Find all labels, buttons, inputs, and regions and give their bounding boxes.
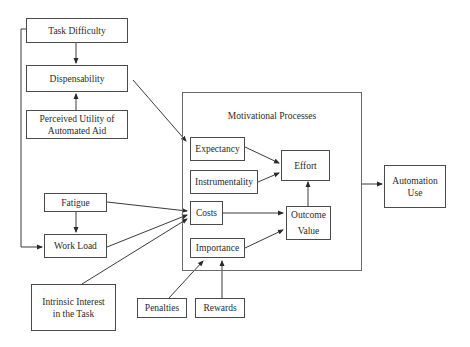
arrow-fatigue-costs <box>107 202 187 211</box>
node-label: Expectancy <box>195 143 239 155</box>
group-title: Motivational Processes <box>183 111 361 121</box>
node-intrinsic-interest: Intrinsic Interest in the Task <box>31 284 116 331</box>
node-label: Outcome Value <box>291 211 326 235</box>
arrow-dispensability-expectancy <box>133 80 186 141</box>
node-label: Importance <box>196 242 239 254</box>
node-work-load: Work Load <box>44 234 107 258</box>
node-fatigue: Fatigue <box>44 193 107 212</box>
node-rewards: Rewards <box>195 298 245 318</box>
node-penalties: Penalties <box>137 298 187 318</box>
node-label: Instrumentality <box>195 176 253 188</box>
node-label: Costs <box>196 207 217 219</box>
node-automation-use: Automation Use <box>384 165 446 208</box>
node-label: Penalties <box>145 302 179 314</box>
node-label: Intrinsic Interest in the Task <box>42 296 105 320</box>
node-label: Task Difficulty <box>48 25 105 37</box>
node-instrumentality: Instrumentality <box>190 170 258 194</box>
arrow-workload-costs <box>107 215 187 247</box>
node-costs: Costs <box>190 201 223 225</box>
node-perceived-utility: Perceived Utility of Automated Aid <box>26 110 128 139</box>
node-label: Rewards <box>203 302 236 314</box>
node-dispensability: Dispensability <box>26 65 128 92</box>
node-label: Dispensability <box>50 73 105 85</box>
node-outcome-value: Outcome Value <box>286 206 331 240</box>
node-label: Effort <box>294 160 317 172</box>
node-task-difficulty: Task Difficulty <box>26 18 128 43</box>
node-label: Fatigue <box>61 197 90 209</box>
node-importance: Importance <box>190 238 245 258</box>
node-label: Automation Use <box>392 175 437 199</box>
node-label: Perceived Utility of Automated Aid <box>40 113 115 137</box>
node-effort: Effort <box>281 150 330 181</box>
node-expectancy: Expectancy <box>190 137 245 161</box>
node-label: Work Load <box>54 240 97 252</box>
